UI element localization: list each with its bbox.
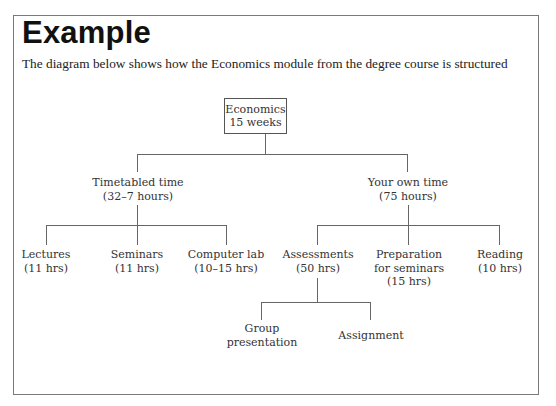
leaf-node-assignment: Assignment <box>338 329 403 343</box>
branch-node-detail: (32–7 hours) <box>92 190 183 204</box>
node-label: Assignment <box>338 329 403 343</box>
connector-line <box>261 302 371 303</box>
node-label: Lectures <box>22 248 71 262</box>
diagram-caption: The diagram below shows how the Economic… <box>22 56 508 72</box>
connector-line <box>137 154 408 155</box>
connector-line <box>317 278 318 302</box>
connector-line <box>46 225 227 226</box>
node-label-line2: presentation <box>227 336 298 350</box>
page-title: Example <box>22 15 151 51</box>
node-label: Seminars <box>111 248 164 262</box>
root-node-title: Economics <box>225 103 285 117</box>
leaf-node-group-presentation: Group presentation <box>227 322 298 349</box>
branch-node-your-own-time: Your own time (75 hours) <box>368 176 448 203</box>
node-assessments: Assessments (50 hrs) <box>282 248 353 275</box>
connector-line <box>317 225 318 245</box>
branch-node-timetabled-time: Timetabled time (32–7 hours) <box>92 176 183 203</box>
node-detail: (11 hrs) <box>111 262 164 276</box>
root-node-economics: Economics 15 weeks <box>224 98 287 134</box>
connector-line <box>46 225 47 245</box>
branch-node-title: Timetabled time <box>92 176 183 190</box>
branch-node-title: Your own time <box>368 176 448 190</box>
connector-line <box>407 154 408 172</box>
leaf-node-computer-lab: Computer lab (10–15 hrs) <box>188 248 264 275</box>
node-label: Group <box>227 322 298 336</box>
node-label: Preparation <box>374 248 444 262</box>
connector-line <box>137 154 138 172</box>
leaf-node-seminars: Seminars (11 hrs) <box>111 248 164 275</box>
connector-line <box>226 225 227 245</box>
node-label: Assessments <box>282 248 353 262</box>
leaf-node-reading: Reading (10 hrs) <box>477 248 523 275</box>
node-label-line2: for seminars <box>374 262 444 276</box>
node-detail: (11 hrs) <box>22 262 71 276</box>
connector-line <box>370 302 371 320</box>
node-detail: (15 hrs) <box>374 275 444 289</box>
connector-line <box>261 302 262 320</box>
connector-line <box>317 225 500 226</box>
leaf-node-lectures: Lectures (11 hrs) <box>22 248 71 275</box>
leaf-node-preparation-for-seminars: Preparation for seminars (15 hrs) <box>374 248 444 289</box>
node-detail: (50 hrs) <box>282 262 353 276</box>
node-label: Reading <box>477 248 523 262</box>
root-node-detail: 15 weeks <box>229 116 281 130</box>
node-label: Computer lab <box>188 248 264 262</box>
connector-line <box>499 225 500 245</box>
node-detail: (10 hrs) <box>477 262 523 276</box>
node-detail: (10–15 hrs) <box>188 262 264 276</box>
connector-line <box>265 134 266 154</box>
branch-node-detail: (75 hours) <box>368 190 448 204</box>
